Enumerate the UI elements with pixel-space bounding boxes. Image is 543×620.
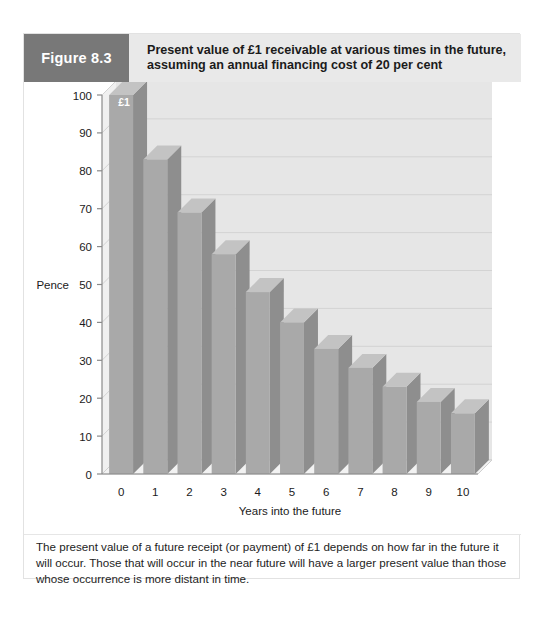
y-axis-tick-label: 50: [79, 279, 92, 291]
bar-front-face: [348, 368, 372, 474]
y-axis-tick-label: 100: [73, 90, 92, 102]
figure-title: Present value of £1 receivable at variou…: [129, 34, 521, 82]
bar-column: [383, 373, 421, 474]
bar-column: [212, 240, 250, 474]
y-axis-tick-label: 40: [79, 317, 92, 329]
bar-column: [109, 82, 147, 474]
bar-value-annotation: £1: [118, 96, 130, 108]
x-axis-tick-label: 2: [186, 486, 192, 498]
bar-column: [348, 354, 386, 474]
bar-front-face: [451, 413, 475, 474]
bar-front-face: [280, 322, 304, 474]
x-axis-tick-label: 1: [152, 486, 158, 498]
x-axis-tick-label: 6: [323, 486, 329, 498]
bar-front-face: [109, 95, 133, 474]
x-axis-title: Years into the future: [239, 505, 342, 517]
y-axis-tick-label: 70: [79, 203, 92, 215]
x-axis-tick-label: 3: [220, 486, 226, 498]
bar-column: [417, 388, 455, 474]
bar-front-face: [314, 349, 338, 474]
bar-front-face: [417, 402, 441, 474]
bar-column: [177, 198, 215, 474]
x-axis-tick-label: 9: [426, 486, 432, 498]
x-axis-tick-label: 7: [357, 486, 363, 498]
bar-column: [451, 399, 489, 474]
bar-front-face: [212, 254, 236, 474]
bar-column: [280, 308, 318, 474]
figure-title-line-1: Present value of £1 receivable at variou…: [147, 43, 513, 59]
y-axis-tick-label: 30: [79, 355, 92, 367]
bar-front-face: [383, 387, 407, 474]
bar-column: [246, 278, 284, 474]
y-axis-tick-label: 60: [79, 241, 92, 253]
figure-card: Figure 8.3 Present value of £1 receivabl…: [23, 33, 520, 579]
x-axis-tick-label: 4: [255, 486, 262, 498]
x-axis-tick-label: 0: [118, 486, 124, 498]
bar-front-face: [143, 159, 167, 474]
figure-number-badge: Figure 8.3: [24, 34, 129, 82]
figure-header: Figure 8.3 Present value of £1 receivabl…: [24, 34, 521, 82]
chart-plot-area: 1009080706050403020100Pence012345678910£…: [24, 82, 521, 534]
y-axis-tick-label: 20: [79, 393, 92, 405]
y-axis-tick-label: 80: [79, 165, 92, 177]
bar-chart: 1009080706050403020100Pence012345678910£…: [24, 82, 521, 534]
figure-caption: The present value of a future receipt (o…: [24, 534, 521, 580]
y-axis-tick-label: 90: [79, 127, 92, 139]
bar-column: [314, 335, 352, 474]
bar-front-face: [246, 292, 270, 474]
y-axis-title: Pence: [36, 279, 69, 291]
bar-front-face: [177, 212, 201, 474]
chart-content: 1009080706050403020100Pence012345678910£…: [36, 82, 492, 517]
figure-title-line-2: assuming an annual financing cost of 20 …: [147, 58, 513, 74]
x-axis-tick-label: 10: [457, 486, 470, 498]
y-axis-tick-label: 10: [79, 431, 92, 443]
y-axis-tick-label: 0: [86, 469, 92, 481]
x-axis-tick-label: 8: [391, 486, 397, 498]
bar-column: [143, 145, 181, 474]
x-axis-tick-label: 5: [289, 486, 295, 498]
